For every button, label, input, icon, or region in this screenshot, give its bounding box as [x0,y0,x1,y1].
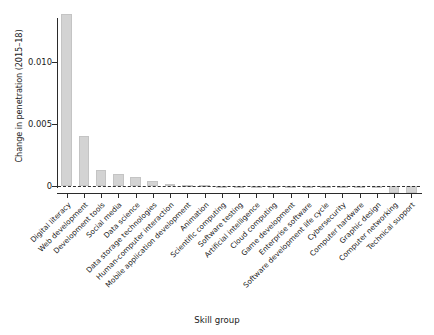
x-tick-mark [153,194,154,198]
x-tick-mark [205,194,206,198]
bar [113,174,124,186]
x-tick-mark [308,194,309,198]
bar [130,177,141,186]
x-tick-mark [394,194,395,198]
x-tick-mark [411,194,412,198]
x-tick-mark [342,194,343,198]
y-tick-label: 0.010 [6,58,52,66]
plot-area [58,14,422,188]
bar-chart-figure: Change in penetration (2015–18) 00.0050.… [0,0,434,335]
x-tick-mark [170,194,171,198]
x-tick-mark [239,194,240,198]
x-tick-mark [118,194,119,198]
y-tick-mark [52,62,57,63]
y-axis-title: Change in penetration (2015–18) [14,18,28,174]
x-tick-mark [360,194,361,198]
bar [79,136,90,186]
x-tick-mark [187,194,188,198]
x-tick-mark [84,194,85,198]
x-tick-mark [67,194,68,198]
y-tick-mark [52,124,57,125]
x-tick-mark [136,194,137,198]
y-tick-label: 0.005 [6,120,52,128]
x-tick-mark [377,194,378,198]
bar [61,14,72,186]
x-tick-mark [325,194,326,198]
bar [96,170,107,186]
x-tick-mark [101,194,102,198]
x-tick-mark [222,194,223,198]
x-tick-mark [291,194,292,198]
zero-reference-line [58,186,420,187]
x-tick-mark [273,194,274,198]
y-tick-label: 0 [6,182,52,190]
x-axis-title: Skill group [0,315,434,325]
y-tick-mark [52,186,57,187]
x-tick-mark [256,194,257,198]
